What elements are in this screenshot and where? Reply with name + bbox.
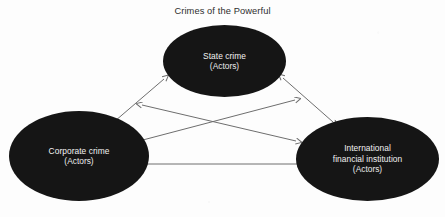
node-corporate-crime[interactable]: Corporate crime (Actors) xyxy=(9,111,149,201)
arrow-corporate-upper-to-ifi-lower xyxy=(142,105,296,141)
arrow-state-to-ifi xyxy=(283,78,333,122)
node-state-crime-sublabel: (Actors) xyxy=(210,61,239,71)
arrow-corporate-lower-to-ifi-upper xyxy=(139,100,295,141)
diagram-canvas: Crimes of the Powerful State crime (Acto… xyxy=(0,0,445,217)
node-state-crime[interactable]: State crime (Actors) xyxy=(163,25,286,97)
page-title: Crimes of the Powerful xyxy=(0,6,445,17)
node-international-financial-institution[interactable]: International financial institution (Act… xyxy=(296,117,439,201)
node-corporate-crime-sublabel: (Actors) xyxy=(64,156,93,166)
node-state-crime-label: State crime xyxy=(203,51,246,61)
node-ifi-label-line1: International xyxy=(344,143,391,153)
node-corporate-crime-label: Corporate crime xyxy=(49,146,110,156)
node-ifi-sublabel: (Actors) xyxy=(353,164,382,174)
arrow-corporate-to-state xyxy=(115,79,164,121)
node-ifi-label-line2: financial institution xyxy=(333,154,403,164)
